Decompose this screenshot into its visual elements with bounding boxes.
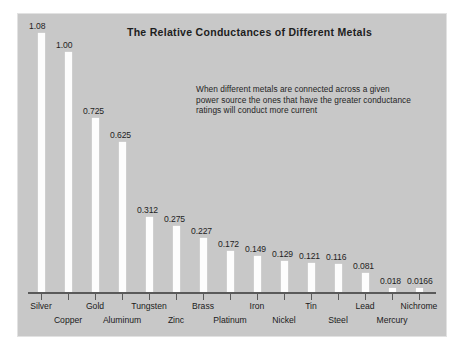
chart-screenshot: The Relative Conductances of Different M…	[0, 0, 463, 357]
bar-slot	[190, 20, 218, 292]
bar-gold	[92, 118, 99, 292]
bar-lead	[362, 273, 369, 292]
x-axis-tick	[68, 292, 69, 300]
value-label: 0.227	[191, 226, 212, 236]
x-axis-tick	[338, 292, 339, 300]
bar-slot	[163, 20, 191, 292]
x-axis-label-platinum: Platinum	[202, 315, 258, 325]
x-axis-label-lead: Lead	[337, 301, 393, 311]
x-axis-label-brass: Brass	[175, 301, 231, 311]
x-axis-label-nichrome: Nichrome	[391, 301, 447, 311]
x-axis-label-tin: Tin	[283, 301, 339, 311]
plot-area	[28, 20, 434, 292]
value-label: 1.00	[56, 40, 72, 50]
bar-slot	[82, 20, 110, 292]
bar-iron	[254, 256, 261, 292]
x-axis-tick	[392, 292, 393, 300]
x-axis-tick	[176, 292, 177, 300]
value-label: 0.018	[380, 276, 401, 286]
x-axis-tick	[203, 292, 204, 300]
x-axis-label-tungsten: Tungsten	[121, 301, 177, 311]
bar-copper	[65, 52, 72, 292]
x-axis-label-zinc: Zinc	[148, 315, 204, 325]
value-label: 0.121	[299, 251, 320, 261]
x-axis-label-copper: Copper	[40, 315, 96, 325]
value-label: 0.149	[245, 244, 266, 254]
bar-slot	[136, 20, 164, 292]
x-axis-tick	[284, 292, 285, 300]
value-label: 0.081	[353, 261, 374, 271]
bar-slot	[406, 20, 434, 292]
bar-silver	[38, 33, 45, 292]
x-axis-label-silver: Silver	[13, 301, 69, 311]
x-axis-tick	[95, 292, 96, 300]
x-axis-tick	[230, 292, 231, 300]
bar-slot	[217, 20, 245, 292]
x-axis-tick	[419, 292, 420, 300]
bar-slot	[379, 20, 407, 292]
x-axis-tick	[257, 292, 258, 300]
bar-nickel	[281, 261, 288, 292]
bar-slot	[352, 20, 380, 292]
value-label: 0.275	[164, 214, 185, 224]
bar-platinum	[227, 251, 234, 292]
bar-slot	[109, 20, 137, 292]
bar-tungsten	[146, 217, 153, 292]
bar-tin	[308, 263, 315, 292]
bar-slot	[55, 20, 83, 292]
x-axis-label-aluminum: Aluminum	[94, 315, 150, 325]
x-axis-tick	[311, 292, 312, 300]
value-label: 0.129	[272, 249, 293, 259]
x-axis-label-mercury: Mercury	[364, 315, 420, 325]
value-label: 0.725	[83, 106, 104, 116]
x-axis-tick	[365, 292, 366, 300]
value-label: 0.0166	[407, 276, 433, 286]
value-label: 1.08	[29, 21, 45, 31]
value-label: 0.172	[218, 239, 239, 249]
x-axis-label-gold: Gold	[67, 301, 123, 311]
value-label: 0.312	[137, 205, 158, 215]
bar-brass	[200, 238, 207, 292]
x-axis-label-steel: Steel	[310, 315, 366, 325]
value-label: 0.625	[110, 130, 131, 140]
x-axis-label-iron: Iron	[229, 301, 285, 311]
bar-steel	[335, 264, 342, 292]
bar-zinc	[173, 226, 180, 292]
x-axis-tick	[149, 292, 150, 300]
value-label: 0.116	[326, 252, 346, 262]
x-axis-tick	[122, 292, 123, 300]
bar-slot	[28, 20, 56, 292]
x-axis-line	[28, 292, 436, 294]
x-axis-label-nickel: Nickel	[256, 315, 312, 325]
x-axis-tick	[41, 292, 42, 300]
bar-aluminum	[119, 142, 126, 292]
